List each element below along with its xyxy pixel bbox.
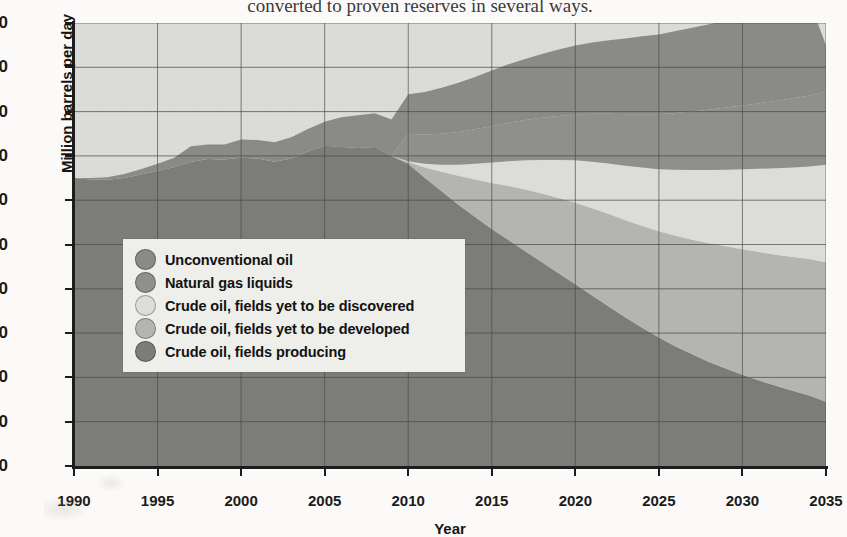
x-tick-label: 2030 — [712, 493, 772, 509]
y-tick-label: 30 — [0, 326, 8, 340]
x-tick-mark — [825, 467, 827, 476]
y-tick-label: 0 — [0, 459, 8, 473]
x-tick-mark — [157, 467, 159, 476]
y-tick-mark — [65, 376, 74, 378]
page-caption-text: converted to proven reserves in several … — [0, 0, 840, 16]
x-tick-label: 2010 — [378, 493, 438, 509]
legend-item-label: Natural gas liquids — [165, 275, 293, 291]
y-tick-label: 20 — [0, 370, 8, 384]
legend-item-label: Crude oil, fields yet to be discovered — [165, 298, 414, 314]
y-tick-label: 60 — [0, 193, 8, 207]
legend-item: Crude oil, fields producing — [135, 340, 455, 363]
x-tick-label: 2005 — [295, 493, 355, 509]
x-tick-mark — [240, 467, 242, 476]
y-tick-mark — [65, 199, 74, 201]
legend-item: Natural gas liquids — [135, 271, 455, 294]
legend-swatch-circle-icon — [135, 318, 156, 339]
legend-item-label: Unconventional oil — [165, 252, 293, 268]
x-tick-label: 1990 — [44, 493, 104, 509]
legend-item-label: Crude oil, fields yet to be developed — [165, 321, 409, 337]
legend-item: Crude oil, fields yet to be discovered — [135, 294, 455, 317]
x-tick-label: 1995 — [128, 493, 188, 509]
chart-legend: Unconventional oilNatural gas liquidsCru… — [123, 239, 465, 372]
x-tick-mark — [574, 467, 576, 476]
y-tick-mark — [65, 421, 74, 423]
x-axis-line — [72, 466, 828, 469]
legend-swatch-circle-icon — [135, 272, 156, 293]
x-tick-mark — [658, 467, 660, 476]
x-tick-mark — [324, 467, 326, 476]
legend-item: Unconventional oil — [135, 248, 455, 271]
y-axis-title: Million barrels per day — [58, 14, 75, 173]
x-tick-label: 2000 — [211, 493, 271, 509]
y-tick-mark — [65, 288, 74, 290]
y-tick-mark — [65, 244, 74, 246]
legend-swatch-circle-icon — [135, 341, 156, 362]
legend-item: Crude oil, fields yet to be developed — [135, 317, 455, 340]
y-tick-label: 80 — [0, 105, 8, 119]
y-tick-label: 40 — [0, 282, 8, 296]
y-tick-label: 10 — [0, 415, 8, 429]
y-tick-label: 50 — [0, 238, 8, 252]
x-tick-mark — [741, 467, 743, 476]
x-tick-label: 2025 — [629, 493, 689, 509]
x-axis-title: Year — [74, 520, 826, 537]
x-tick-mark — [73, 467, 75, 476]
y-tick-label: 70 — [0, 149, 8, 163]
legend-item-label: Crude oil, fields producing — [165, 344, 346, 360]
x-tick-label: 2015 — [462, 493, 522, 509]
x-tick-label: 2020 — [545, 493, 605, 509]
x-tick-mark — [407, 467, 409, 476]
legend-swatch-circle-icon — [135, 249, 156, 270]
x-tick-label: 2035 — [796, 493, 847, 509]
y-tick-label: 100 — [0, 16, 8, 30]
y-tick-label: 90 — [0, 60, 8, 74]
y-tick-mark — [65, 332, 74, 334]
x-tick-mark — [491, 467, 493, 476]
legend-swatch-circle-icon — [135, 295, 156, 316]
scan-smudge-artifact-2 — [96, 474, 126, 492]
